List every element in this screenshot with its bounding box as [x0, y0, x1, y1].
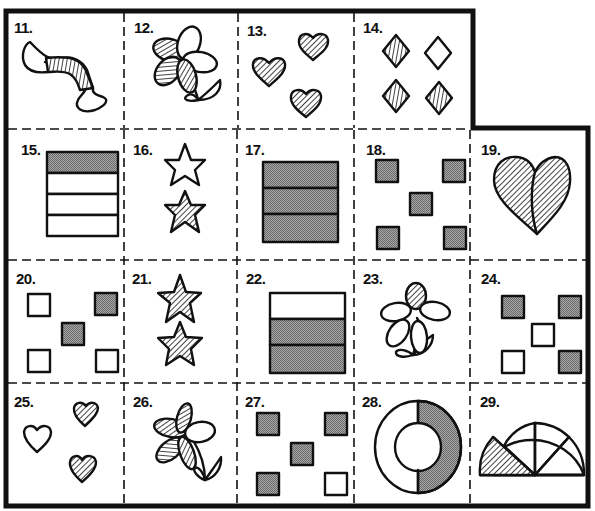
cell-number-25: 25.: [14, 393, 33, 410]
squares-icon: [376, 160, 466, 249]
cell-number-14: 14.: [363, 19, 382, 36]
cell-number-16: 16.: [133, 141, 152, 158]
flower-icon: [149, 23, 220, 101]
squares-icon: [502, 296, 581, 373]
diamonds-icon: [383, 35, 452, 114]
stars-icon: [158, 275, 202, 365]
cell-number-20: 20.: [16, 270, 35, 287]
dashed-grid: [8, 13, 586, 504]
cell-number-17: 17.: [245, 141, 264, 158]
flower-icon: [152, 402, 221, 480]
ring-icon: [375, 401, 461, 493]
flower-icon: [380, 283, 452, 357]
cell-number-23: 23.: [363, 270, 382, 287]
rectangle-thirds-icon: [270, 293, 345, 373]
rectangle-thirds-icon: [263, 162, 338, 242]
cell-number-29: 29.: [480, 393, 499, 410]
worksheet-drawing: [0, 0, 595, 511]
cell-number-22: 22.: [246, 270, 265, 287]
squares-icon: [28, 293, 118, 372]
cell-number-19: 19.: [481, 141, 500, 158]
cell-number-27: 27.: [245, 393, 264, 410]
cell-number-11: 11.: [14, 19, 33, 36]
squares-icon: [257, 413, 347, 495]
hearts-icon: [253, 34, 328, 117]
cell-number-18: 18.: [366, 141, 385, 158]
cell-number-26: 26.: [133, 393, 152, 410]
semicircle-icon: [480, 423, 584, 475]
stars-icon: [165, 144, 205, 232]
cell-number-12: 12.: [134, 19, 153, 36]
cell-number-13: 13.: [247, 22, 266, 39]
cell-number-28: 28.: [362, 393, 381, 410]
fraction-worksheet: 11. 12. 13. 14. 15. 16. 17. 18. 19. 20. …: [0, 0, 595, 511]
rectangle-quarters-icon: [47, 152, 118, 236]
heart-halves-icon: [494, 157, 570, 234]
cell-number-15: 15.: [21, 141, 40, 158]
cell-number-21: 21.: [132, 270, 151, 287]
hearts-icon: [24, 403, 98, 482]
cell-number-24: 24.: [481, 270, 500, 287]
worm-icon: [23, 42, 106, 111]
